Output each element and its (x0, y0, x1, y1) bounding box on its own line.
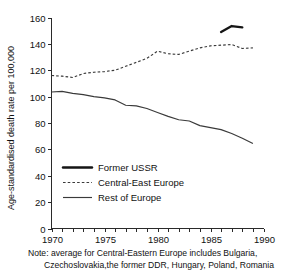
legend-label-2: Rest of Europe (98, 192, 161, 203)
x-tick-label: 1985 (201, 234, 222, 245)
line-chart: Age-standardised death rate per 100,000 … (0, 0, 286, 274)
x-tick-label: 1970 (42, 234, 63, 245)
y-tick-label: 80 (35, 118, 46, 129)
chart-figure: Age-standardised death rate per 100,000 … (0, 0, 286, 274)
legend-item-former-ussr: Former USSR (63, 162, 158, 173)
y-tick-label: 160 (30, 13, 46, 24)
y-tick-label: 40 (35, 171, 46, 182)
x-axis-ticks: 19701975198019851990 (42, 229, 275, 245)
y-tick-label: 20 (35, 197, 46, 208)
legend-item-rest-of-europe: Rest of Europe (63, 192, 161, 203)
x-tick-label: 1980 (148, 234, 169, 245)
legend-item-central-east-europe: Central-East Europe (63, 177, 184, 188)
chart-legend: Former USSR Central-East Europe Rest of … (63, 162, 184, 203)
legend-label-1: Central-East Europe (98, 177, 184, 188)
y-axis-title-text: Age-standardised death rate per 100,000 (6, 46, 16, 210)
data-series-layer (52, 26, 253, 143)
y-tick-label: 120 (30, 65, 46, 76)
note-line-2: Czechoslovakia,the former DDR, Hungary, … (44, 260, 274, 270)
series-former-ussr (221, 26, 242, 32)
y-tick-label: 60 (35, 144, 46, 155)
series-central-east-europe (52, 45, 253, 78)
legend-label-0: Former USSR (98, 162, 158, 173)
note-line-1: Note: average for Central-Eastern Europe… (28, 248, 257, 258)
series-rest-of-europe (52, 91, 253, 143)
y-axis-ticks: 020406080100120140160 (30, 13, 52, 235)
chart-note: Note: average for Central-Eastern Europe… (28, 248, 274, 270)
x-tick-label: 1990 (254, 234, 275, 245)
x-tick-label: 1975 (95, 234, 116, 245)
y-axis-title: Age-standardised death rate per 100,000 (6, 46, 16, 210)
y-tick-label: 140 (30, 39, 46, 50)
y-tick-label: 100 (30, 92, 46, 103)
